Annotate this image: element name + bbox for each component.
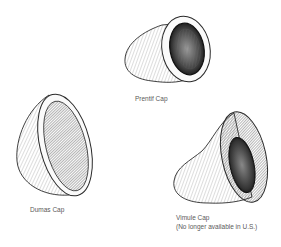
prentif-cap-label: Prentif Cap	[135, 95, 168, 103]
dumas-cap-label: Dumas Cap	[30, 206, 64, 214]
dumas-cap-illustration	[13, 89, 95, 201]
vimule-cap-icon	[172, 107, 270, 207]
prentif-cap-icon	[122, 13, 214, 87]
prentif-cap-illustration	[122, 13, 214, 87]
vimule-cap-note: (No longer available in U.S.)	[176, 223, 257, 231]
vimule-cap-illustration	[172, 107, 270, 207]
dumas-cap-icon	[13, 89, 95, 201]
vimule-cap-label: Vimule Cap	[176, 214, 209, 222]
